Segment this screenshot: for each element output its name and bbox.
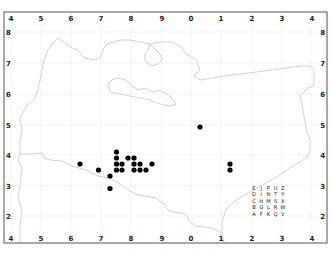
occurrence-dots bbox=[77, 124, 232, 191]
y-tick-label-left: 3 bbox=[6, 183, 11, 191]
legend-letter: G bbox=[259, 204, 263, 210]
legend-letter: D bbox=[252, 191, 256, 197]
y-tick-label-right: 5 bbox=[320, 122, 325, 130]
x-tick-label-top: 2 bbox=[250, 15, 255, 23]
grid-lines bbox=[4, 12, 327, 243]
legend-letter: X bbox=[281, 198, 285, 204]
legend-letter: R bbox=[274, 204, 278, 210]
occurrence-dot bbox=[131, 155, 136, 160]
x-tick-label-top: 1 bbox=[219, 15, 224, 23]
x-tick-label-bottom: 9 bbox=[160, 235, 165, 243]
x-tick-label-bottom: 4 bbox=[310, 235, 315, 243]
legend-letter: Q bbox=[274, 211, 278, 217]
y-tick-label-left: 6 bbox=[6, 91, 11, 99]
legend-letter: A bbox=[252, 211, 256, 217]
legend-letter: L bbox=[267, 204, 270, 210]
x-tick-label-bottom: 5 bbox=[39, 235, 44, 243]
occurrence-dot bbox=[114, 149, 119, 154]
y-tick-label-left: 4 bbox=[6, 152, 11, 160]
occurrence-dot bbox=[197, 124, 202, 129]
occurrence-dot bbox=[137, 167, 142, 172]
x-tick-label-top: 8 bbox=[129, 15, 134, 23]
legend-letter: M bbox=[266, 198, 270, 204]
y-tick-label-left: 2 bbox=[6, 213, 11, 221]
y-tick-label-right: 7 bbox=[320, 60, 325, 68]
occurrence-dot bbox=[143, 167, 148, 172]
map-frame bbox=[4, 12, 327, 243]
legend-letter: C bbox=[252, 198, 256, 204]
legend-letter: I bbox=[260, 191, 262, 197]
y-tick-label-right: 8 bbox=[320, 29, 325, 37]
legend-letter: B bbox=[252, 204, 256, 210]
x-tick-label-top: 9 bbox=[160, 15, 165, 23]
occurrence-dot bbox=[119, 161, 124, 166]
y-axis-right-ticks: 8765432 bbox=[320, 29, 325, 221]
occurrence-dot bbox=[77, 161, 82, 166]
y-tick-label-right: 4 bbox=[320, 152, 325, 160]
legend-letter: W bbox=[280, 204, 285, 210]
legend-letter: Z bbox=[281, 185, 285, 191]
y-tick-label-right: 3 bbox=[320, 183, 325, 191]
occurrence-dot bbox=[149, 161, 154, 166]
occurrence-dot bbox=[114, 155, 119, 160]
occurrence-dot bbox=[227, 167, 232, 172]
x-tick-label-top: 7 bbox=[99, 15, 104, 23]
x-tick-label-bottom: 2 bbox=[250, 235, 255, 243]
x-tick-label-top: 6 bbox=[69, 15, 74, 23]
x-tick-label-bottom: 7 bbox=[99, 235, 104, 243]
occurrence-dot bbox=[137, 161, 142, 166]
x-tick-label-top: 5 bbox=[39, 15, 44, 23]
x-tick-label-top: 4 bbox=[9, 15, 14, 23]
legend-letter: T bbox=[273, 191, 278, 197]
occurrence-dot bbox=[125, 155, 130, 160]
occurrence-dot bbox=[107, 173, 112, 178]
y-tick-label-left: 8 bbox=[6, 29, 11, 37]
legend-letter: H bbox=[259, 198, 263, 204]
occurrence-dot bbox=[114, 167, 119, 172]
legend-letter: S bbox=[274, 198, 277, 204]
x-tick-label-bottom: 6 bbox=[69, 235, 74, 243]
occurrence-dot bbox=[114, 161, 119, 166]
occurrence-dot bbox=[107, 186, 112, 191]
y-tick-label-right: 6 bbox=[320, 91, 325, 99]
x-tick-label-top: 0 bbox=[189, 15, 194, 23]
occurrence-dot bbox=[131, 161, 136, 166]
x-tick-label-bottom: 8 bbox=[129, 235, 134, 243]
legend-letter: V bbox=[281, 211, 285, 217]
distribution-map: 45678901234 45678901234 8765432 8765432 … bbox=[0, 0, 332, 254]
x-tick-label-bottom: 0 bbox=[189, 235, 194, 243]
occurrence-dot bbox=[131, 167, 136, 172]
occurrence-dot bbox=[96, 167, 101, 172]
y-tick-label-left: 7 bbox=[6, 60, 11, 68]
legend-letter: N bbox=[266, 191, 270, 197]
y-tick-label-left: 5 bbox=[6, 122, 11, 130]
legend-letter: K bbox=[267, 211, 271, 217]
x-axis-bottom-ticks: 45678901234 bbox=[9, 235, 315, 243]
x-tick-label-bottom: 4 bbox=[9, 235, 14, 243]
x-tick-label-bottom: 1 bbox=[219, 235, 224, 243]
x-tick-label-top: 4 bbox=[310, 15, 315, 23]
legend-letter: P bbox=[267, 185, 270, 191]
x-tick-label-top: 3 bbox=[280, 15, 285, 23]
occurrence-dot bbox=[227, 161, 232, 166]
x-tick-label-bottom: 3 bbox=[280, 235, 285, 243]
legend-letter: E bbox=[252, 185, 255, 191]
legend-letter: Y bbox=[280, 191, 285, 197]
occurrence-dot bbox=[119, 167, 124, 172]
legend-letter: U bbox=[274, 185, 278, 191]
x-axis-top-ticks: 45678901234 bbox=[9, 15, 315, 23]
legend-letter-grid: EJPUZDINTYCHMSXBGLRWAFKQV bbox=[252, 185, 285, 217]
legend-letter: F bbox=[260, 211, 263, 217]
y-tick-label-right: 2 bbox=[320, 213, 325, 221]
y-axis-left-ticks: 8765432 bbox=[6, 29, 11, 221]
